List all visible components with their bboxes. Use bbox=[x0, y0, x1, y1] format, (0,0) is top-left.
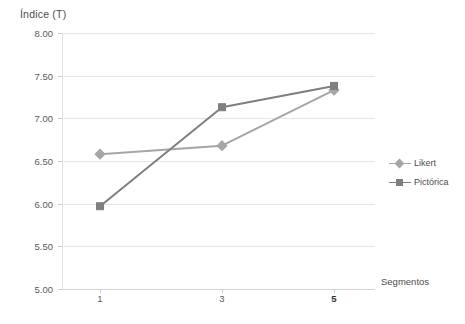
y-tick-label: 5.50 bbox=[35, 241, 54, 252]
legend-item-likert[interactable]: Likert bbox=[389, 158, 449, 168]
y-tick-label: 5.00 bbox=[35, 284, 54, 295]
x-axis-title: Segmentos bbox=[381, 276, 429, 287]
y-tick-label: 8.00 bbox=[35, 28, 54, 39]
chart-legend: LikertPictórica bbox=[389, 158, 449, 187]
legend-label: Likert bbox=[414, 158, 436, 168]
gridline bbox=[62, 204, 375, 205]
y-tick-mark bbox=[58, 204, 62, 205]
y-tick-mark bbox=[58, 76, 62, 77]
gridline bbox=[62, 161, 375, 162]
x-tick-mark bbox=[222, 289, 223, 293]
gridline bbox=[62, 33, 375, 34]
x-tick-label: 3 bbox=[219, 293, 224, 304]
y-axis-title: Índice (T) bbox=[20, 8, 66, 20]
x-tick-mark bbox=[100, 289, 101, 293]
gridline bbox=[62, 246, 375, 247]
y-tick-label: 6.00 bbox=[35, 198, 54, 209]
gridline bbox=[62, 118, 375, 119]
gridline bbox=[62, 76, 375, 77]
x-axis-line bbox=[62, 289, 375, 290]
y-tick-label: 7.00 bbox=[35, 113, 54, 124]
y-tick-mark bbox=[58, 161, 62, 162]
y-tick-mark bbox=[58, 246, 62, 247]
legend-key-marker bbox=[395, 159, 405, 169]
legend-key-marker bbox=[396, 179, 403, 186]
legend-label: Pictórica bbox=[414, 177, 449, 187]
y-tick-label: 7.50 bbox=[35, 70, 54, 81]
x-tick-mark bbox=[334, 289, 335, 293]
y-tick-mark bbox=[58, 33, 62, 34]
y-tick-mark bbox=[58, 289, 62, 290]
legend-key-icon bbox=[389, 177, 411, 187]
x-tick-label: 1 bbox=[97, 293, 102, 304]
legend-item-pictórica[interactable]: Pictórica bbox=[389, 177, 449, 187]
line-chart: Índice (T) Segmentos 8.007.507.006.506.0… bbox=[0, 0, 465, 324]
y-tick-label: 6.50 bbox=[35, 156, 54, 167]
legend-key-icon bbox=[389, 158, 411, 168]
plot-area bbox=[62, 33, 375, 289]
x-tick-label: 5 bbox=[331, 293, 336, 304]
y-tick-mark bbox=[58, 118, 62, 119]
